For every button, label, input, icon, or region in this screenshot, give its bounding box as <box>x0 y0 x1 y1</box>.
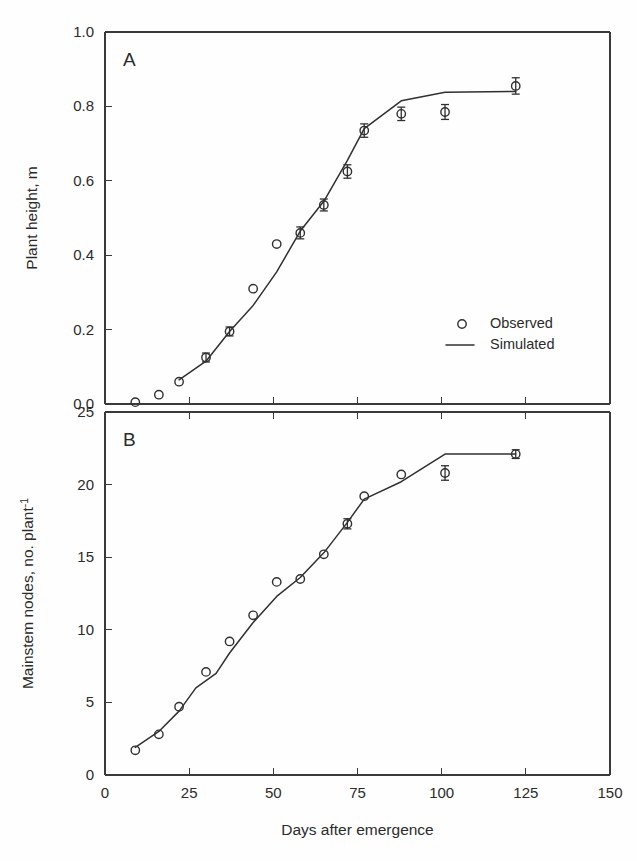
y-tick-label: 1.0 <box>73 23 94 40</box>
observed-point <box>155 391 163 399</box>
observed-series <box>131 450 520 755</box>
observed-point <box>397 470 405 478</box>
legend-marker-observed <box>458 320 466 328</box>
observed-point <box>273 578 281 586</box>
figure-container: 0.00.20.40.60.81.0APlant height, m 05101… <box>0 0 637 861</box>
observed-series <box>131 78 520 407</box>
x-axis-title: Days after emergence <box>281 821 434 838</box>
y-axis-title-superscript: -1 <box>18 498 30 507</box>
shared-x-axis: 0255075100125150Days after emergence <box>101 784 623 838</box>
observed-point <box>202 668 210 676</box>
y-tick-label: 0.4 <box>73 246 94 263</box>
observed-point <box>249 284 257 292</box>
x-tick-label: 25 <box>181 784 198 801</box>
panel-a-plant-height: 0.00.20.40.60.81.0APlant height, m <box>23 23 610 412</box>
panel-b-mainstem-nodes: 0510152025BMainstem nodes, no. plant-1 <box>18 403 610 783</box>
y-tick-label: 0.8 <box>73 97 94 114</box>
y-tick-label: 25 <box>77 403 94 420</box>
y-tick-label: 20 <box>77 476 94 493</box>
observed-point <box>131 398 139 406</box>
y-tick-label: 15 <box>77 548 94 565</box>
simulated-line <box>179 92 516 380</box>
x-tick-label: 125 <box>513 784 538 801</box>
observed-point <box>175 377 183 385</box>
y-tick-label: 0 <box>86 766 94 783</box>
x-tick-label: 0 <box>101 784 109 801</box>
legend-label: Simulated <box>490 336 554 352</box>
y-tick-label: 5 <box>86 693 94 710</box>
y-axis-title: Mainstem nodes, no. plant-1 <box>18 498 36 689</box>
x-tick-label: 75 <box>349 784 366 801</box>
legend-label: Observed <box>490 315 553 331</box>
panel-letter: B <box>123 429 136 450</box>
x-tick-label: 150 <box>597 784 622 801</box>
simulated-line <box>135 454 515 747</box>
observed-point <box>273 240 281 248</box>
y-tick-label: 0.2 <box>73 321 94 338</box>
x-tick-label: 50 <box>265 784 282 801</box>
chart-legend: ObservedSimulated <box>446 315 554 352</box>
panel-letter: A <box>123 49 136 70</box>
observed-point <box>225 637 233 645</box>
figure-svg: 0.00.20.40.60.81.0APlant height, m 05101… <box>0 0 637 861</box>
y-tick-label: 0.6 <box>73 172 94 189</box>
y-axis-title: Plant height, m <box>23 166 40 269</box>
x-tick-label: 100 <box>429 784 454 801</box>
observed-point <box>320 550 328 558</box>
y-tick-label: 10 <box>77 621 94 638</box>
